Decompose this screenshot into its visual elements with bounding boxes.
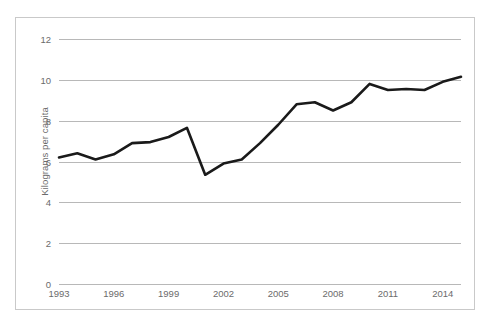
y-axis-tick-label: 6 [46,156,51,167]
data-series-line [59,39,461,284]
x-axis-tick-label: 1996 [103,288,124,299]
gridline [59,284,461,285]
y-axis-tick-label: 12 [40,34,51,45]
x-axis-tick-label: 2014 [432,288,453,299]
x-axis-tick-label: 1993 [48,288,69,299]
x-axis-tick-label: 1999 [158,288,179,299]
y-axis-tick-label: 4 [46,197,51,208]
chart-container: Kilograms per capita 121086420 199319961… [0,0,492,330]
chart-frame: Kilograms per capita 121086420 199319961… [15,17,475,310]
y-axis-tick-label: 10 [40,74,51,85]
x-axis-tick-label: 2005 [268,288,289,299]
y-axis-tick-label: 8 [46,115,51,126]
x-axis-tick-labels: 19931996199920022005200820112014 [59,288,461,304]
plot-area [59,39,461,284]
y-axis-tick-label: 2 [46,238,51,249]
y-axis-tick-labels: 121086420 [16,39,59,284]
x-axis-tick-label: 2011 [378,288,398,299]
x-axis-tick-label: 2002 [213,288,234,299]
x-axis-tick-label: 2008 [323,288,344,299]
